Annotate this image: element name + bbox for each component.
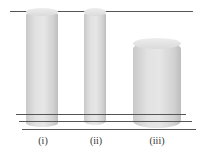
base-line-3 [22, 129, 196, 130]
cylinder-iii [133, 42, 181, 128]
label-iii: (iii) [150, 135, 165, 146]
cylinder-top [84, 8, 106, 16]
cylinder-top [133, 38, 181, 49]
label-ii: (ii) [90, 135, 102, 146]
base-line-1 [16, 114, 186, 115]
cylinder-body [133, 42, 181, 128]
cylinder-top [26, 8, 58, 16]
label-i: (i) [38, 135, 47, 146]
base-line-2 [19, 121, 192, 122]
cylinder-body [84, 11, 106, 125]
cylinder-ii [84, 11, 106, 125]
cylinder-i [26, 11, 58, 127]
cylinder-body [26, 11, 58, 127]
